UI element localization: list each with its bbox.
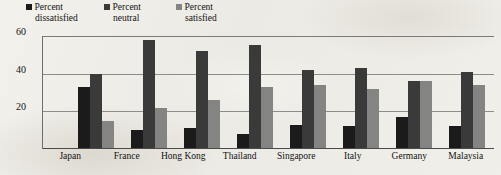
chart-plot-area: 604020 <box>16 36 494 149</box>
bar-thailand-dissatisfied <box>237 134 249 149</box>
bar-thailand-satisfied <box>261 87 273 149</box>
chart-legend: Percent dissatisfied Percent neutral Per… <box>26 2 266 28</box>
bar-singapore-neutral <box>302 70 314 149</box>
bar-singapore-dissatisfied <box>290 125 302 149</box>
legend-item-neutral: Percent neutral <box>104 2 141 25</box>
x-label-singapore: Singapore <box>268 150 325 164</box>
bar-germany-dissatisfied <box>396 117 408 149</box>
bar-group-germany <box>396 36 432 149</box>
bar-japan-dissatisfied <box>78 87 90 149</box>
plot-frame <box>42 36 494 149</box>
bar-groups <box>69 36 494 149</box>
bar-group-italy <box>343 36 379 149</box>
bar-malaysia-dissatisfied <box>449 126 461 149</box>
x-label-germany: Germany <box>381 150 438 164</box>
x-label-thailand: Thailand <box>212 150 269 164</box>
x-label-japan: Japan <box>42 150 99 164</box>
bar-italy-satisfied <box>367 89 379 149</box>
bar-thailand-neutral <box>249 45 261 149</box>
bar-japan-satisfied <box>102 121 114 149</box>
x-axis-category-labels: JapanFranceHong KongThailandSingaporeIta… <box>42 150 494 164</box>
legend-label-neutral-line1: Percent <box>104 2 141 13</box>
bar-germany-satisfied <box>420 81 432 149</box>
bar-malaysia-satisfied <box>473 85 485 149</box>
x-axis-line <box>43 148 494 149</box>
bar-group-thailand <box>237 36 273 149</box>
bar-france-dissatisfied <box>131 130 143 149</box>
x-label-italy: Italy <box>325 150 382 164</box>
bar-singapore-satisfied <box>314 85 326 149</box>
legend-label-dissatisfied-line1: Percent <box>26 2 78 13</box>
legend-swatch-dissatisfied-icon <box>26 4 32 10</box>
bar-group-singapore <box>290 36 326 149</box>
bar-hong-kong-neutral <box>196 51 208 149</box>
x-label-hong-kong: Hong Kong <box>155 150 212 164</box>
bar-group-malaysia <box>449 36 485 149</box>
legend-label-satisfied-line2: satisfied <box>185 13 217 24</box>
legend-item-satisfied: Percent satisfied <box>176 2 217 25</box>
legend-item-dissatisfied: Percent dissatisfied <box>26 2 78 25</box>
y-tick-label-40: 40 <box>16 65 38 75</box>
legend-swatch-neutral-icon <box>104 4 110 10</box>
legend-label-neutral-line2: neutral <box>113 13 141 24</box>
x-label-france: France <box>99 150 156 164</box>
legend-label-dissatisfied-line2: dissatisfied <box>35 13 78 24</box>
y-tick-label-20: 20 <box>16 102 38 112</box>
legend-swatch-satisfied-icon <box>176 4 182 10</box>
bar-group-japan <box>78 36 114 149</box>
bar-italy-neutral <box>355 68 367 149</box>
bar-hong-kong-dissatisfied <box>184 128 196 149</box>
x-label-malaysia: Malaysia <box>438 150 495 164</box>
chart-page: Percent dissatisfied Percent neutral Per… <box>0 0 501 175</box>
bar-group-hong-kong <box>184 36 220 149</box>
bar-malaysia-neutral <box>461 72 473 149</box>
bar-germany-neutral <box>408 81 420 149</box>
y-tick-label-60: 60 <box>16 27 38 37</box>
legend-label-satisfied-line1: Percent <box>176 2 217 13</box>
bar-japan-neutral <box>90 74 102 149</box>
bar-france-satisfied <box>155 108 167 149</box>
bar-hong-kong-satisfied <box>208 100 220 149</box>
bar-italy-dissatisfied <box>343 126 355 149</box>
bar-group-france <box>131 36 167 149</box>
bar-france-neutral <box>143 40 155 149</box>
